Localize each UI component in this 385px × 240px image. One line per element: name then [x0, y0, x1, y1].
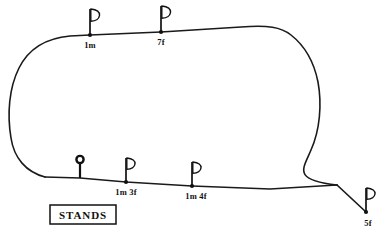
flag-pennant-icon [367, 188, 375, 199]
marker-dot [124, 180, 128, 184]
marker-label-1m: 1m [84, 40, 96, 50]
flag-pennant-icon [193, 162, 201, 173]
marker-1m4f: 1m 4f [185, 162, 207, 201]
marker-dot [364, 210, 368, 214]
track-outline-group [9, 26, 366, 212]
stands-box: STANDS [50, 205, 116, 224]
marker-1m3f: 1m 3f [115, 158, 137, 197]
marker-label-1m3f: 1m 3f [115, 187, 137, 197]
stands-label: STANDS [59, 209, 107, 221]
marker-label-5f: 5f [364, 218, 371, 228]
marker-dot [88, 33, 92, 37]
marker-7f: 7f [157, 6, 170, 47]
marker-dot [159, 30, 163, 34]
track-outline-top-and-left [9, 26, 337, 185]
course-figure: 1m 7f 1m 3f 1m 4f 5f [0, 0, 385, 240]
flag-pennant-icon [127, 158, 135, 169]
winning-post-ring [76, 156, 83, 163]
flag-pennant-icon [162, 6, 171, 18]
flag-pennant-icon [91, 9, 100, 21]
track-spur-to-5f-start [337, 185, 366, 212]
marker-dot [190, 184, 194, 188]
marker-label-1m4f: 1m 4f [185, 191, 207, 201]
marker-label-7f: 7f [157, 37, 164, 47]
marker-1m: 1m [84, 9, 99, 50]
winning-post [76, 156, 83, 178]
marker-5f: 5f [364, 188, 375, 228]
